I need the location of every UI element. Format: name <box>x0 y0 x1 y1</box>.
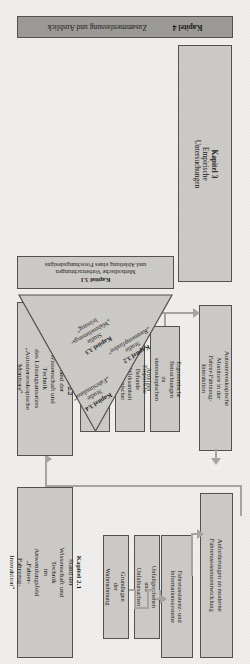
subbox-accidents-line2: Unfallursachen <box>136 566 143 608</box>
chapter-2-1-result-box: Anforderungen an moderne Fahrerassistenz… <box>200 493 233 658</box>
subbox-perception-line1: Grundlagen der <box>112 569 127 606</box>
subbox-adas-line1: Fahrerassistenz- und <box>177 570 184 623</box>
chapter-2-1-box: Kapitel 2.1 Stand der Wissenschaft und T… <box>17 487 73 658</box>
result-2-1-line1: Anforderungen an moderne <box>217 539 225 612</box>
chapter-3-1-line1: Methodische Vorbetrachtungen <box>45 269 146 277</box>
chapter-4-title: Zusammenfassung und Ausblick <box>48 23 147 32</box>
chapter-3-title: Empirische Untersuchungen <box>192 139 209 187</box>
diagram-canvas: Kapitel 2.1 Stand der Wissenschaft und T… <box>0 0 250 664</box>
arrowhead-to-result-2-1-icon <box>197 529 204 539</box>
subbox-adas-line2: Informationssysteme <box>170 570 177 623</box>
connector-adas-out <box>191 534 193 576</box>
arrowhead-to-result-2-2-icon <box>193 308 200 318</box>
arrowhead-2-2-to-3-icon <box>211 458 221 465</box>
chapter-3-1-box: Kapitel 3.1 Methodische Vorbetrachtungen… <box>17 256 174 289</box>
connector-2-1-d <box>147 589 149 609</box>
connector-2-1-b <box>134 589 136 609</box>
connector-2-1-to-2-2-h <box>45 485 242 487</box>
result-2-1-line2: Fahrerassistenzentwicklung <box>209 539 217 612</box>
chapter-2-2-result-box: Autostereoskopische Monitore in der Fahr… <box>199 305 232 451</box>
chapter-3-1-line2: und Ableitung eines Forschungsdesigns <box>45 261 146 269</box>
chapter-3-number: Kapitel 3 <box>209 139 218 187</box>
chapter-2-1-line3: „Fahrer-Fahrzeug-Interaktion“ <box>7 548 32 598</box>
connector-2-1-g <box>156 598 161 600</box>
subbox-accidents-line1: Unfallgeschehen und <box>143 566 158 608</box>
connector-2-2-to-3-v <box>215 449 217 458</box>
connector-2-1-to-2-2-v <box>240 486 242 516</box>
result-2-2-line2: Fahrer-Fahrzeug-Interaktion <box>200 351 216 406</box>
connector-2-1-e <box>147 589 154 591</box>
chapter-2-1-subbox-perception: Grundlagen der Wahrnehmung <box>103 535 129 639</box>
chapter-3-1-number: Kapitel 3.1 <box>45 276 146 284</box>
chapter-4-banner: Kapitel 4 Zusammenfassung und Ausblick <box>17 16 233 38</box>
triangle-shape-icon <box>17 293 174 433</box>
subbox-perception-line2: Wahrnehmung <box>105 569 112 606</box>
chapter-2-1-line2: im Anwendungsfeld <box>32 548 49 598</box>
connector-2-1-to-2-2-v2 <box>45 461 47 487</box>
arrowhead-to-adas-icon <box>160 594 167 604</box>
studies-triangle: Kapitel 3.2 Studie „Raumempfinden“ Kapit… <box>17 293 174 433</box>
chapter-2-1-line1: Stand der Wissenschaft und Technik <box>49 548 74 598</box>
result-2-2-line1: Autostereoskopische Monitore in der <box>216 351 232 406</box>
chapter-2-1-subbox-accidents: Unfallgeschehen und Unfallursachen <box>134 535 160 639</box>
chapter-2-1-number: Kapitel 2.1 <box>74 548 82 598</box>
chapter-4-number: Kapitel 4 <box>173 23 203 32</box>
chapter-3-box: Kapitel 3 Empirische Untersuchungen <box>178 45 232 282</box>
